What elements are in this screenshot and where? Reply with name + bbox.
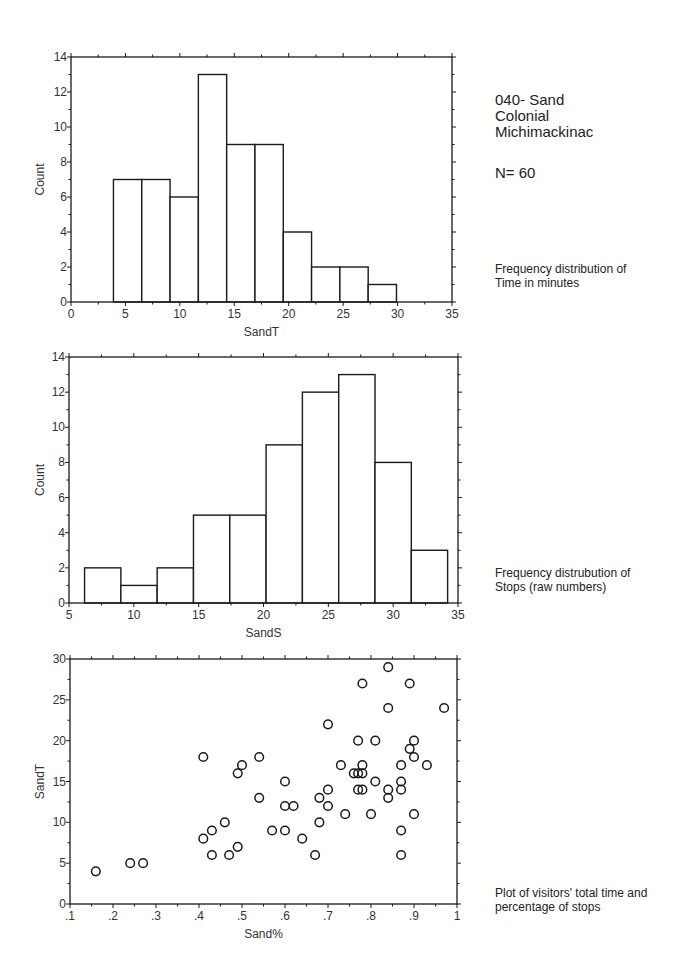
y-tick-label: 30	[53, 652, 67, 666]
x-tick-label: .4	[194, 909, 204, 923]
dataset-site: Michimackinac	[495, 124, 593, 140]
histogram-bar	[113, 180, 141, 303]
sample-size: N= 60	[495, 164, 535, 181]
x-tick-label: 20	[257, 608, 271, 622]
y-tick-label: 0	[58, 596, 65, 610]
y-axis-title: SandT	[33, 763, 47, 799]
scatter-point	[208, 851, 217, 860]
scatter-point	[423, 761, 432, 770]
caption-line: Stops (raw numbers)	[495, 580, 630, 594]
scatter-point	[324, 802, 333, 811]
x-tick-label: 30	[391, 307, 405, 321]
scatter-point	[281, 802, 290, 811]
scatter-point	[371, 777, 380, 786]
y-tick-label: 0	[59, 897, 66, 911]
scatter-point	[397, 851, 406, 860]
x-tick-label: .1	[65, 909, 75, 923]
scatter-point	[367, 810, 376, 819]
x-tick-label: 5	[122, 307, 129, 321]
scatter-point	[324, 785, 333, 794]
scatter-point	[358, 679, 367, 688]
y-tick-label: 25	[53, 693, 67, 707]
histogram-bar	[375, 462, 411, 603]
x-tick-label: 0	[68, 307, 75, 321]
caption-chart2: Frequency distrubution of Stops (raw num…	[495, 566, 630, 594]
y-tick-label: 2	[58, 561, 65, 575]
scatter-point	[397, 826, 406, 835]
scatter-point	[208, 826, 217, 835]
scatter-point	[225, 851, 234, 860]
histogram-bar	[302, 392, 338, 603]
scatter-point	[289, 802, 298, 811]
y-tick-label: 6	[58, 491, 65, 505]
scatter-point	[255, 753, 264, 762]
x-tick-label: 25	[322, 608, 336, 622]
x-tick-label: .2	[108, 909, 118, 923]
x-tick-label: 20	[282, 307, 296, 321]
x-tick-label: .6	[280, 909, 290, 923]
y-axis-title: Count	[33, 163, 47, 196]
scatter-point	[221, 818, 230, 827]
caption-line: Time in minutes	[495, 276, 626, 290]
scatter-point	[384, 704, 393, 713]
y-tick-label: 15	[53, 775, 67, 789]
caption-chart3: Plot of visitors' total time and percent…	[495, 886, 647, 914]
scatter-point	[341, 810, 350, 819]
caption-line: Plot of visitors' total time and	[495, 886, 647, 900]
scatter-point	[315, 794, 324, 803]
histogram-time: 0510152025303502468101214SandTCount	[33, 50, 459, 339]
scatter-point	[268, 826, 277, 835]
histogram-bar	[340, 267, 368, 302]
scatter-point	[358, 761, 367, 770]
histogram-bar	[312, 267, 340, 302]
y-tick-label: 6	[60, 190, 67, 204]
scatter-point	[126, 859, 135, 868]
scatter-point	[311, 851, 320, 860]
scatter-point	[397, 761, 406, 770]
histogram-bar	[121, 585, 157, 603]
x-tick-label: 10	[173, 307, 187, 321]
scatter-point	[139, 859, 148, 868]
scatter-point	[315, 818, 324, 827]
caption-line: Frequency distribution of	[495, 262, 626, 276]
histogram-bar	[266, 445, 302, 603]
charts-canvas: 0510152025303502468101214SandTCount 5101…	[0, 0, 686, 976]
histogram-bar	[170, 197, 198, 302]
scatter-point	[92, 867, 101, 876]
x-axis-title: SandS	[245, 626, 281, 640]
x-tick-label: 15	[192, 608, 206, 622]
y-tick-label: 12	[52, 385, 66, 399]
caption-line: Frequency distrubution of	[495, 566, 630, 580]
scatter-point	[384, 785, 393, 794]
scatter-point	[397, 785, 406, 794]
scatter-point	[281, 777, 290, 786]
scatter-point	[440, 704, 449, 713]
scatter-point	[397, 777, 406, 786]
x-tick-label: 5	[66, 608, 73, 622]
x-tick-label: 15	[228, 307, 242, 321]
x-tick-label: 1	[454, 909, 461, 923]
y-axis-title: Count	[33, 463, 47, 496]
scatter-point	[410, 810, 419, 819]
histogram-bar	[368, 285, 396, 303]
y-tick-label: 14	[52, 350, 66, 364]
scatter-point	[410, 736, 419, 745]
scatter-point	[233, 843, 242, 852]
histogram-bar	[411, 550, 447, 603]
scatter-point	[384, 663, 393, 672]
scatter-point	[410, 753, 419, 762]
x-tick-label: .9	[409, 909, 419, 923]
scatter-point	[298, 834, 307, 843]
dataset-code: 040- Sand	[495, 92, 593, 108]
y-tick-label: 8	[60, 155, 67, 169]
y-tick-label: 12	[54, 85, 68, 99]
x-tick-label: 30	[386, 608, 400, 622]
x-axis-title: SandT	[244, 325, 280, 339]
histogram-bar	[193, 515, 229, 603]
y-tick-label: 0	[60, 295, 67, 309]
scatter-point	[371, 736, 380, 745]
scatter-point	[337, 761, 346, 770]
scatter-point	[199, 753, 208, 762]
histogram-stops: 510152025303502468101214SandSCount	[33, 350, 465, 640]
y-tick-label: 5	[59, 856, 66, 870]
